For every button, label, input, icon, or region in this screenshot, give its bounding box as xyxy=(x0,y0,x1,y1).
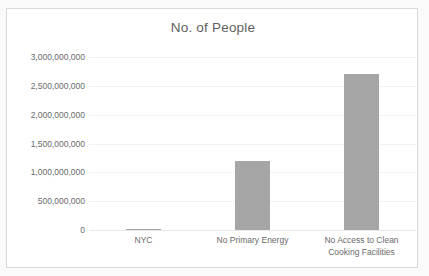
bar-0[interactable] xyxy=(126,229,161,230)
bar-1[interactable] xyxy=(235,161,270,230)
x-axis-label-line: No Primary Energy xyxy=(217,235,289,245)
axis-baseline xyxy=(89,230,416,231)
x-axis-tick-label: NYC xyxy=(89,235,198,247)
x-axis-label-line: No Access to Clean xyxy=(324,235,398,245)
y-axis-tick-label: 2,500,000,000 xyxy=(5,81,85,91)
chart-frame: No. of People 3,000,000,0002,500,000,000… xyxy=(6,8,418,268)
y-axis-tick-label: 3,000,000,000 xyxy=(5,52,85,62)
screenshot-canvas: No. of People 3,000,000,0002,500,000,000… xyxy=(0,0,429,276)
x-axis-category-labels: NYCNo Primary EnergyNo Access to Clean C… xyxy=(89,235,416,269)
plot-area xyxy=(89,57,416,230)
chart-title: No. of People xyxy=(7,20,419,35)
y-axis-tick-label: 1,000,000,000 xyxy=(5,167,85,177)
x-axis-tick-label: No Primary Energy xyxy=(198,235,307,247)
y-axis-tick-label: 0 xyxy=(5,225,85,235)
y-axis-tick-labels: 3,000,000,0002,500,000,0002,000,000,0001… xyxy=(7,57,85,230)
y-axis-tick-label: 500,000,000 xyxy=(5,196,85,206)
x-axis-label-line: NYC xyxy=(135,235,153,245)
bar-2[interactable] xyxy=(344,74,379,230)
y-axis-tick-label: 2,000,000,000 xyxy=(5,110,85,120)
x-axis-label-line: Cooking Facilities xyxy=(307,247,416,259)
gridline xyxy=(89,57,416,58)
x-axis-tick-label: No Access to Clean Cooking Facilities xyxy=(307,235,416,258)
y-axis-tick-label: 1,500,000,000 xyxy=(5,139,85,149)
